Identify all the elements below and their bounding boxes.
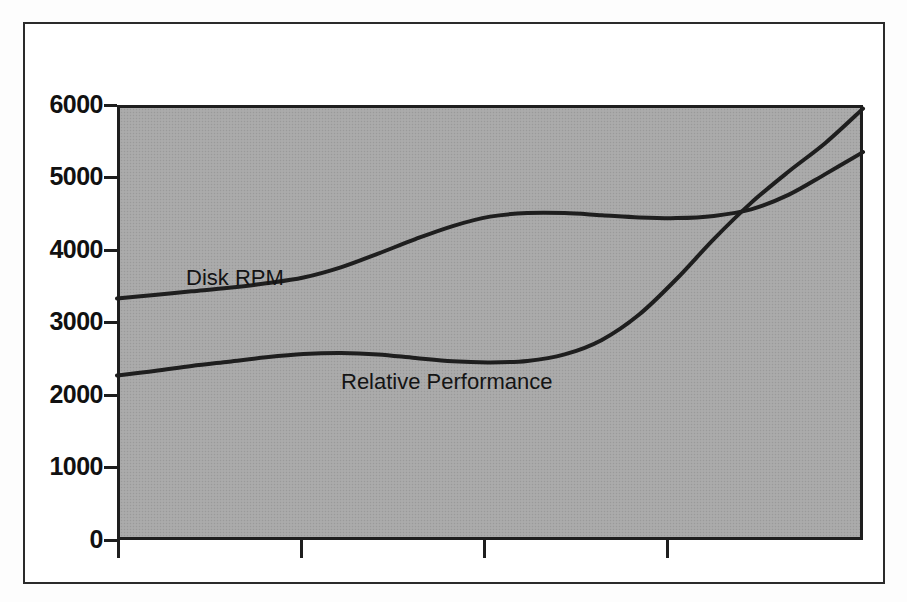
y-tick-label: 4000 <box>49 235 103 264</box>
y-tick-label: 5000 <box>49 162 103 191</box>
y-tick-mark <box>104 321 117 324</box>
y-tick-mark <box>104 249 117 252</box>
series-label-relative-performance: Relative Performance <box>341 369 553 395</box>
y-tick-label: 1000 <box>49 452 103 481</box>
series-curves <box>117 105 863 540</box>
y-axis: 6000 5000 4000 3000 2000 1000 0 <box>0 0 117 602</box>
x-tick-mark-3 <box>483 540 486 558</box>
x-tick-mark-1 <box>117 540 120 558</box>
x-tick-mark-2 <box>300 540 303 558</box>
y-tick-mark <box>104 539 117 542</box>
y-tick-mark <box>104 104 117 107</box>
y-tick-label: 6000 <box>49 90 103 119</box>
y-tick-label: 3000 <box>49 307 103 336</box>
x-tick-mark-4 <box>666 540 669 558</box>
y-tick-label: 2000 <box>49 380 103 409</box>
y-tick-mark <box>104 394 117 397</box>
y-tick-mark <box>104 466 117 469</box>
line-relative-performance <box>117 109 863 376</box>
chart-figure: 6000 5000 4000 3000 2000 1000 0 <box>0 0 907 602</box>
y-tick-label: 0 <box>90 525 103 554</box>
series-label-disk-rpm: Disk RPM <box>186 265 284 291</box>
y-tick-mark <box>104 176 117 179</box>
